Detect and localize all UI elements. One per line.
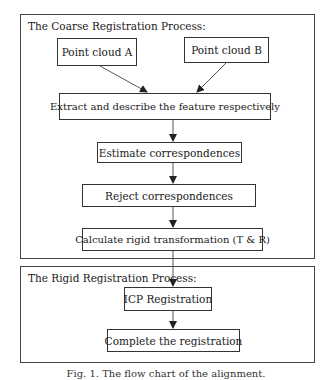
node-point-cloud-a: Point cloud A — [57, 38, 137, 66]
arrow-pcB-to-extract — [197, 63, 226, 92]
node-reject-correspondences: Reject correspondences — [82, 184, 256, 207]
node-estimate-correspondences: Estimate correspondences — [97, 142, 242, 163]
node-point-cloud-b: Point cloud B — [184, 37, 269, 63]
arrow-pcA-to-extract — [100, 66, 147, 92]
node-complete-registration: Complete the registration — [107, 329, 240, 352]
figure-caption: Fig. 1. The flow chart of the alignment. — [0, 368, 332, 379]
node-calculate-rigid-transformation: Calculate rigid transformation (T & R) — [82, 228, 263, 251]
node-extract-features: Extract and describe the feature respect… — [59, 93, 271, 120]
node-icp-registration: ICP Registration — [124, 287, 212, 311]
